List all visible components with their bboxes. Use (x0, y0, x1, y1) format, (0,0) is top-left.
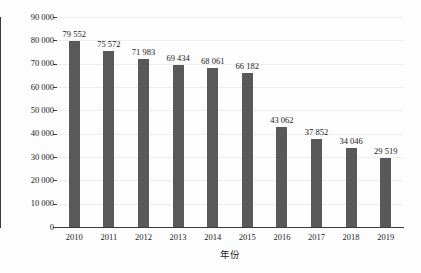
bar-value-label: 34 046 (329, 137, 373, 146)
x-axis-line (57, 227, 404, 228)
bar[interactable] (138, 59, 149, 227)
y-axis-tick-label: 0 (12, 223, 54, 232)
bar-chart: 死亡人数/人 90 00080 00070 00060 00050 00040 … (0, 0, 421, 273)
y-axis-tick-label: 90 000 (12, 13, 54, 22)
y-axis-tick-label: 10 000 (12, 199, 54, 208)
bar[interactable] (311, 139, 322, 227)
x-axis-tick-labels: 2010201120122013201420152016201720182019 (57, 231, 403, 245)
y-axis-line (0, 17, 1, 228)
y-axis-tick-label: 80 000 (12, 36, 54, 45)
y-axis-tick-labels: 90 00080 00070 00060 00050 00040 00030 0… (14, 0, 56, 273)
y-axis-tick-label: 60 000 (12, 83, 54, 92)
bar[interactable] (380, 158, 391, 227)
y-axis-tick-label: 70 000 (12, 59, 54, 68)
bar-value-label: 43 062 (260, 116, 304, 125)
bar[interactable] (173, 65, 184, 227)
y-axis-tick-label: 30 000 (12, 153, 54, 162)
bar-value-label: 66 182 (225, 62, 269, 71)
y-axis-tick-label: 50 000 (12, 106, 54, 115)
y-axis-tick-label: 20 000 (12, 176, 54, 185)
bar[interactable] (103, 51, 114, 227)
x-axis-title: 年份 (57, 249, 403, 261)
x-axis-tick-label: 2019 (366, 231, 406, 243)
bar[interactable] (242, 73, 253, 227)
bar[interactable] (207, 68, 218, 227)
bar-value-label: 37 852 (295, 128, 339, 137)
y-axis-tick-label: 40 000 (12, 129, 54, 138)
bar[interactable] (69, 41, 80, 227)
bar[interactable] (346, 148, 357, 227)
bar-value-label: 79 552 (52, 30, 96, 39)
bar-value-label: 29 519 (364, 147, 408, 156)
bar[interactable] (276, 127, 287, 227)
